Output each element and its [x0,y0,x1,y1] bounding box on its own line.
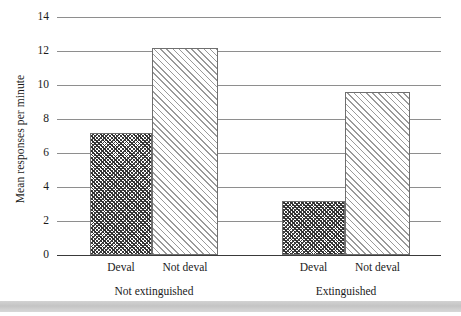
category-label: Deval [107,261,134,273]
y-tick-label: 4 [43,181,49,193]
category-label: Not deval [162,261,207,273]
bar [152,48,218,255]
category-label: Deval [300,261,327,273]
y-tick-label: 8 [43,113,49,125]
plot-area: 02468101214 [57,17,441,255]
category-label: Not deval [355,261,400,273]
y-tick-label: 6 [43,147,49,159]
page-edge-band [0,301,461,312]
y-tick-label: 2 [43,215,49,227]
y-tick-label: 14 [38,11,50,23]
bar [282,201,345,255]
y-tick-label: 12 [38,45,50,57]
gridline-0 [57,255,441,256]
bar [345,92,410,255]
group-label: Extinguished [316,285,377,297]
group-label: Not extinguished [115,285,194,297]
y-tick-label: 0 [43,249,49,261]
gridline-10 [57,85,441,86]
y-tick-label: 10 [38,79,50,91]
gridline-12 [57,51,441,52]
bar-chart-figure: Mean responses per minute 02468101214 De… [0,0,461,316]
y-axis-title: Mean responses per minute [14,24,26,254]
gridline-14 [57,17,441,18]
bar [90,133,152,255]
